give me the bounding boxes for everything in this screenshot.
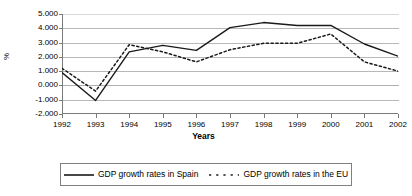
y-axis-tick-label: 1.000 xyxy=(38,67,58,75)
y-axis-tick-mark xyxy=(59,28,62,29)
y-axis-tick-label: 0.000 xyxy=(38,81,58,89)
y-axis-tick-mark xyxy=(59,85,62,86)
y-axis-tick-mark xyxy=(59,100,62,101)
x-axis-tick-mark xyxy=(364,114,365,118)
x-axis-tick-mark xyxy=(297,114,298,118)
legend-item-eu: GDP growth rates in the EU xyxy=(209,170,348,179)
x-axis-tick-label: 1999 xyxy=(280,120,314,129)
legend-label-spain: GDP growth rates in Spain xyxy=(98,170,198,179)
chart-legend: GDP growth rates in Spain GDP growth rat… xyxy=(60,163,352,186)
series-layer xyxy=(62,14,398,114)
x-axis-tick-mark xyxy=(331,114,332,118)
y-axis-tick-mark xyxy=(59,57,62,58)
y-axis-tick-label: 5.000 xyxy=(38,10,58,18)
x-axis-tick-mark xyxy=(264,114,265,118)
y-axis-tick-mark xyxy=(59,71,62,72)
x-axis-tick-label: 1997 xyxy=(213,120,247,129)
x-axis-tick-label: 1992 xyxy=(45,120,79,129)
x-axis-tick-label: 2001 xyxy=(347,120,381,129)
y-axis-tick-labels: 5.0004.0003.0002.0001.0000.000-1.000-2.0… xyxy=(0,0,58,130)
x-axis-tick-label: 1995 xyxy=(146,120,180,129)
x-axis-tick-label: 1998 xyxy=(247,120,281,129)
y-axis-tick-label: 2.000 xyxy=(38,53,58,61)
x-axis-tick-label: 1996 xyxy=(179,120,213,129)
series-line-spain xyxy=(62,23,398,101)
x-axis-title: Years xyxy=(0,131,407,141)
x-axis-tick-mark xyxy=(398,114,399,118)
y-axis-tick-label: 3.000 xyxy=(38,39,58,47)
x-axis-tick-label: 1993 xyxy=(79,120,113,129)
x-axis-tick-mark xyxy=(129,114,130,118)
legend-item-spain: GDP growth rates in Spain xyxy=(64,170,198,179)
x-axis-tick-mark xyxy=(163,114,164,118)
y-axis-tick-label: -2.000 xyxy=(35,110,58,118)
x-axis-tick-label: 1994 xyxy=(112,120,146,129)
y-axis-tick-mark xyxy=(59,43,62,44)
dashed-line-swatch xyxy=(209,171,239,179)
y-axis-tick-mark xyxy=(59,14,62,15)
x-axis-tick-label: 2000 xyxy=(314,120,348,129)
x-axis-tick-mark xyxy=(196,114,197,118)
x-axis-tick-mark xyxy=(230,114,231,118)
x-axis-tick-mark xyxy=(62,114,63,118)
series-line-eu xyxy=(62,34,398,91)
x-axis-tick-mark xyxy=(96,114,97,118)
legend-label-eu: GDP growth rates in the EU xyxy=(243,170,348,179)
x-axis-tick-label: 2002 xyxy=(381,120,412,129)
solid-line-swatch xyxy=(64,171,94,179)
y-axis-tick-label: 4.000 xyxy=(38,24,58,32)
y-axis-tick-label: -1.000 xyxy=(35,96,58,104)
